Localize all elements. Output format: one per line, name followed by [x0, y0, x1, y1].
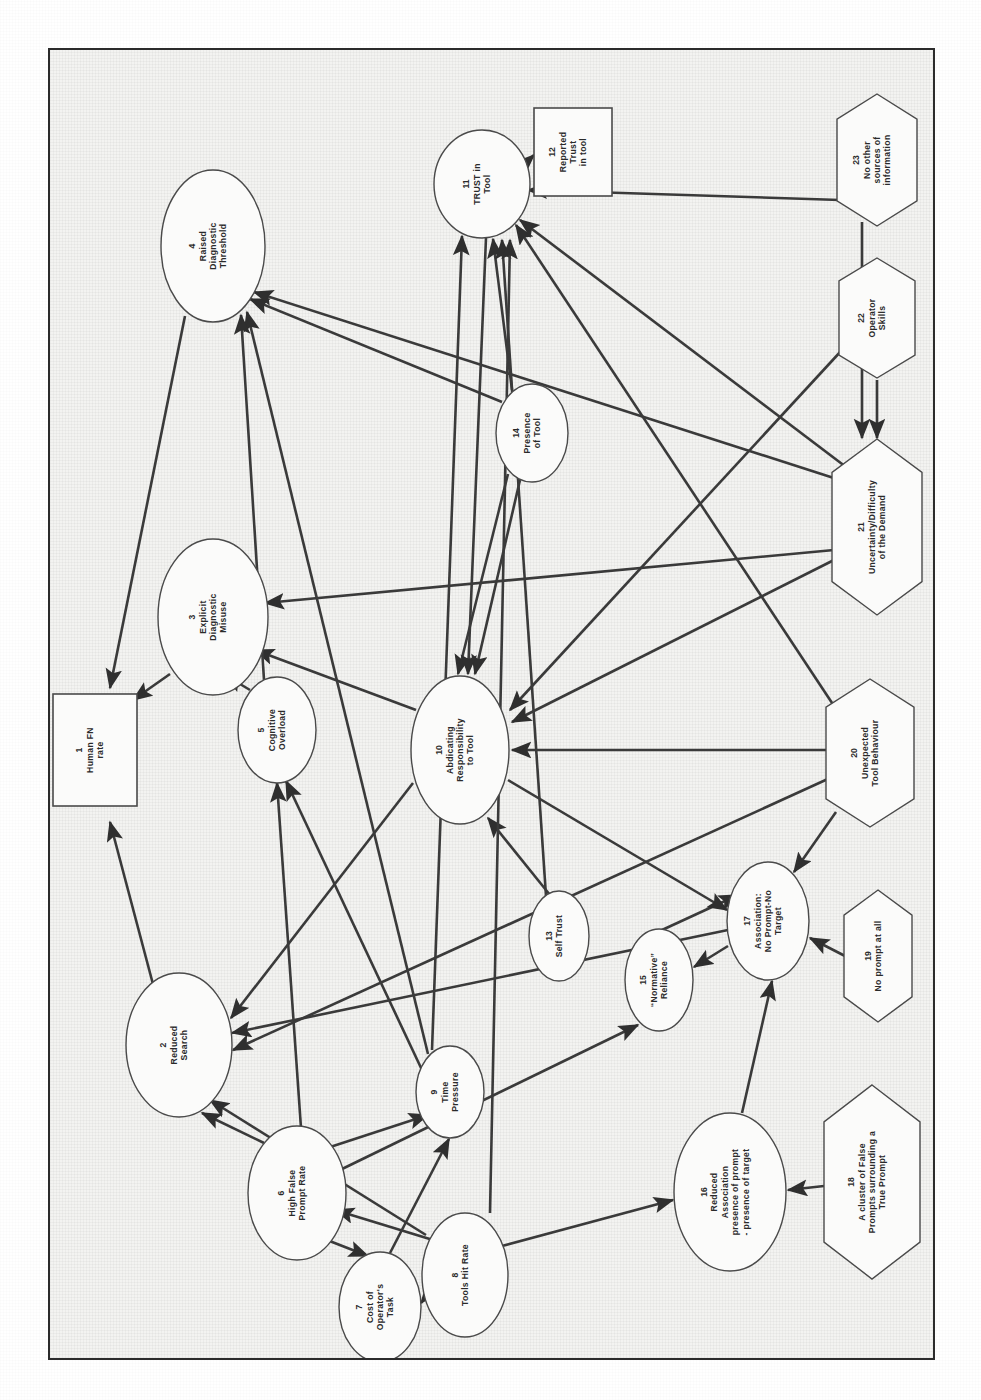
edge-8-to-6	[335, 1210, 433, 1240]
node-3-explicit-diagnostic-misuse[interactable]: 3ExplicitDiagnosticMisuse	[158, 539, 268, 695]
node-7-cost-of-operator-s-task[interactable]: 7Cost ofOperator'sTask	[339, 1252, 421, 1360]
edge-20-to-17	[794, 812, 836, 872]
node-label-line: Prompt Rate	[297, 1166, 307, 1221]
scanned-page: 1Human FNrate2ReducedSearch3ExplicitDiag…	[0, 0, 981, 1400]
edge-9-to-5	[286, 781, 422, 1070]
node-number: 1	[74, 747, 84, 752]
node-number: 17	[742, 916, 752, 926]
edge-11-to-10	[468, 238, 486, 674]
node-1-human-fn-rate[interactable]: 1Human FNrate	[53, 694, 137, 806]
node-label-line: Reliance	[659, 961, 669, 999]
node-8-tools-hit-rate[interactable]: 8Tools Hit Rate	[422, 1213, 508, 1337]
node-15-normative-reliance[interactable]: 15“Normative”Reliance	[625, 929, 693, 1031]
edge-8-to-7	[421, 1298, 425, 1303]
node-10-abdicating-responsibility-to-tool[interactable]: 10AbdicatingResponsibilityto Tool	[411, 676, 509, 824]
node-label-line: Reported	[558, 132, 568, 173]
node-label-line: of Tool	[532, 418, 542, 448]
node-number: 14	[511, 428, 521, 438]
node-label-line: Tools Hit Rate	[460, 1244, 470, 1306]
node-label-line: “Normative”	[649, 953, 659, 1007]
edge-3-to-1	[133, 674, 170, 700]
node-label-line: Human FN	[85, 727, 95, 773]
node-number: 12	[547, 147, 557, 157]
node-label-line: information	[882, 134, 892, 185]
node-label-line: No prompt at all	[873, 920, 883, 991]
node-label-line: TRUST in	[472, 163, 482, 204]
node-label-line: No Prompt-No	[763, 890, 773, 952]
node-number: 4	[187, 243, 197, 248]
node-label-line: Unexpected	[860, 727, 870, 779]
node-label-line: Diagnostic	[208, 222, 218, 269]
node-number: 23	[851, 155, 861, 165]
node-label-line: Pressure	[450, 1072, 460, 1112]
edge-18-to-16	[788, 1186, 824, 1190]
edge-10-to-17	[508, 780, 727, 910]
node-number: 19	[863, 951, 873, 961]
node-number: 22	[856, 313, 866, 323]
diagram-frame: 1Human FNrate2ReducedSearch3ExplicitDiag…	[48, 48, 935, 1360]
node-label-line: Diagnostic	[208, 593, 218, 640]
node-number: 7	[354, 1304, 364, 1309]
node-label-line: to Tool	[465, 735, 475, 765]
node-6-high-false-prompt-rate[interactable]: 6High FalsePrompt Rate	[248, 1126, 346, 1260]
node-20-unexpected-tool-behaviour[interactable]: 20UnexpectedTool Behaviour	[826, 679, 914, 827]
edge-6-to-15	[340, 1025, 638, 1170]
node-label-line: Tool Behaviour	[870, 719, 880, 786]
node-2-reduced-search[interactable]: 2ReducedSearch	[126, 973, 232, 1117]
node-22-operator-skills[interactable]: 22OperatorSkills	[839, 258, 915, 378]
node-23-no-other-sources-of-information[interactable]: 23No othersources ofinformation	[837, 94, 917, 226]
node-label-line: Cost of	[365, 1291, 375, 1323]
node-label-line: Skills	[877, 306, 887, 331]
node-label-line: Target	[773, 907, 783, 935]
node-13-self-trust[interactable]: 13Self Trust	[529, 891, 589, 981]
node-14-presence-of-tool[interactable]: 14Presenceof Tool	[496, 384, 568, 482]
page-top-artifact	[690, 4, 970, 26]
node-21-uncertainty-difficulty-of-the-demand[interactable]: 21Uncertainty/Difficultyof the Demand	[832, 439, 922, 615]
node-label-line: rate	[95, 741, 105, 758]
node-16-reduced-association-presence-of-prompt-presence-of-target[interactable]: 16ReducedAssociationpresence of prompt- …	[674, 1113, 786, 1271]
node-label-line: A cluster of False	[857, 1143, 867, 1221]
edge-20-to-11	[516, 225, 840, 715]
edge-17-to-15	[694, 946, 728, 967]
node-4-raised-diagnostic-threshold[interactable]: 4RaisedDiagnosticThreshold	[161, 170, 265, 322]
node-label-line: Self Trust	[554, 915, 564, 958]
node-label-line: Reduced	[169, 1026, 179, 1065]
node-label-line: sources of	[872, 137, 882, 184]
node-label-line: Cognitive	[267, 709, 277, 751]
node-17-association-no-prompt-no-target[interactable]: 17Association:No Prompt-NoTarget	[727, 862, 809, 980]
node-label-line: Association	[720, 1166, 730, 1219]
node-19-no-prompt-at-all[interactable]: 19No prompt at all	[844, 890, 912, 1022]
node-number: 15	[638, 975, 648, 985]
node-label-line: Time	[440, 1081, 450, 1102]
node-label-line: Raised	[198, 231, 208, 261]
node-label-line: in tool	[578, 138, 588, 166]
node-number: 18	[846, 1177, 856, 1187]
node-label-line: True Prompt	[877, 1155, 887, 1209]
node-18-a-cluster-of-false-prompts-surrounding-a-true-prompt[interactable]: 18A cluster of FalsePrompts surrounding …	[824, 1085, 920, 1279]
node-label-line: Task	[385, 1297, 395, 1317]
node-5-cognitive-overload[interactable]: 5CognitiveOverload	[238, 677, 316, 783]
edge-21-to-11	[520, 220, 850, 470]
edge-16-to-17	[742, 981, 772, 1113]
node-number: 11	[461, 179, 471, 188]
node-9-time-pressure[interactable]: 9TimePressure	[416, 1046, 484, 1138]
node-label-line: No other	[862, 141, 872, 179]
node-number: 13	[544, 931, 554, 941]
node-number: 9	[429, 1089, 439, 1094]
node-label-line: Operator	[867, 298, 877, 337]
node-label-line: Explicit	[198, 600, 208, 633]
node-12-reported-trust-in-tool[interactable]: 12ReportedTrustin tool	[534, 108, 612, 196]
node-label-line: Uncertainty/Difficulty	[867, 480, 877, 574]
node-11-trust-in-tool[interactable]: 11TRUST inTool	[434, 130, 530, 238]
node-label-line: Reduced	[709, 1173, 719, 1212]
node-label-line: High False	[287, 1170, 297, 1217]
node-number: 16	[699, 1187, 709, 1197]
node-label-line: Responsibility	[455, 718, 465, 782]
edge-2-to-1	[110, 822, 154, 988]
edge-8-to-16	[502, 1200, 673, 1246]
node-number: 3	[187, 614, 197, 619]
node-number: 8	[450, 1272, 460, 1277]
node-label-line: Presence	[522, 412, 532, 453]
node-number: 6	[276, 1190, 286, 1195]
node-number: 10	[434, 745, 444, 755]
